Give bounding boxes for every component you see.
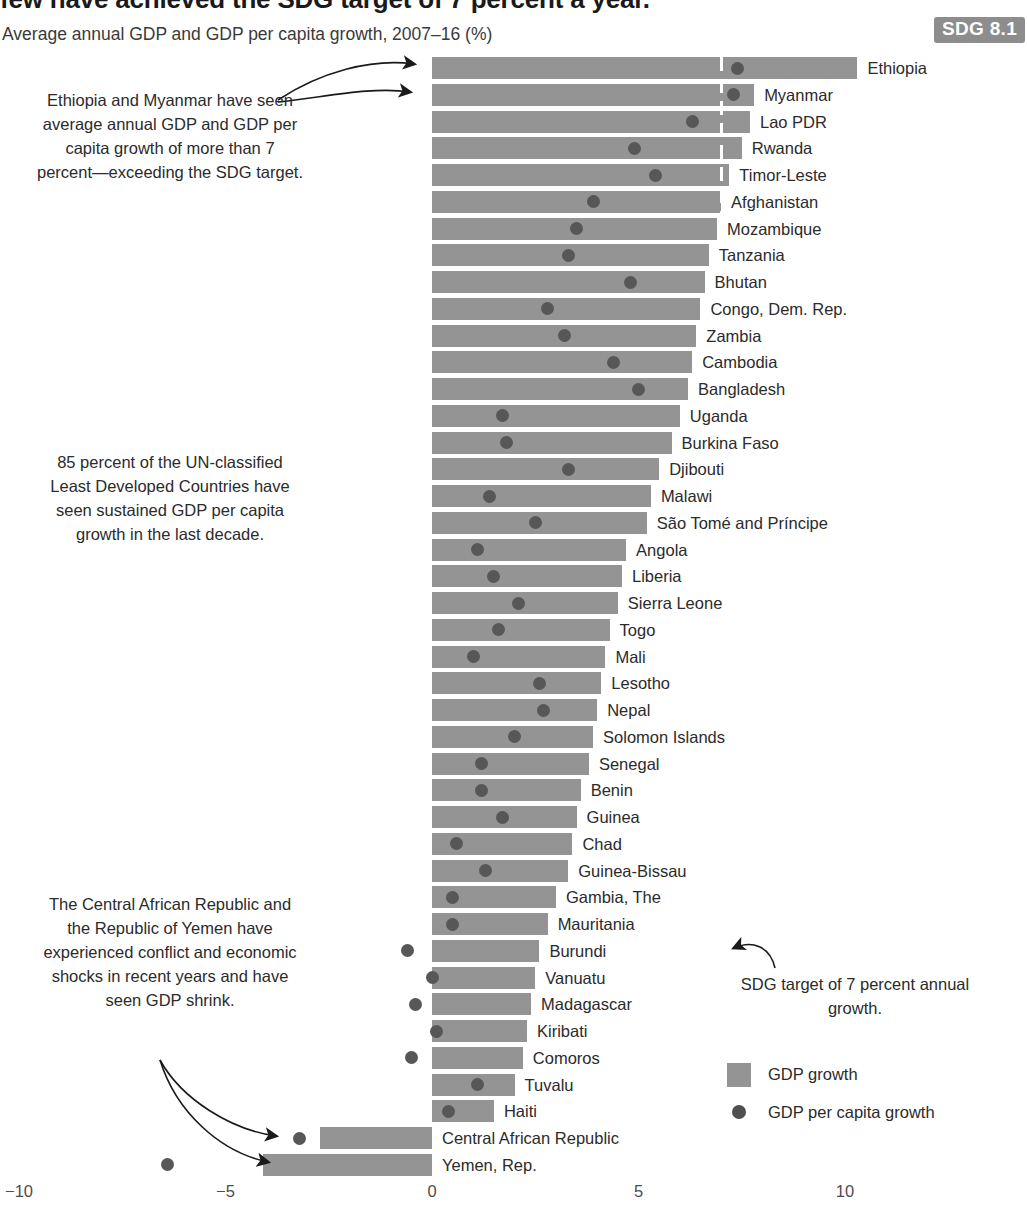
dot-gdp-per-capita-growth — [529, 516, 542, 529]
country-label: Lesotho — [611, 672, 670, 694]
country-label: São Tomé and Príncipe — [657, 512, 828, 534]
bar-gdp-growth — [432, 458, 659, 480]
dot-gdp-per-capita-growth — [475, 784, 488, 797]
x-axis-tick-label: 5 — [634, 1182, 643, 1201]
bar-gdp-growth — [432, 565, 622, 587]
dot-gdp-per-capita-growth — [562, 249, 575, 262]
dot-gdp-per-capita-growth — [496, 811, 509, 824]
bar-gdp-growth — [432, 191, 721, 213]
bar-gdp-growth — [263, 1154, 432, 1176]
sdg-target-reference-line-overlay — [720, 57, 723, 213]
country-label: Angola — [636, 539, 687, 561]
country-label: Kiribati — [537, 1020, 587, 1042]
dot-gdp-per-capita-growth — [607, 356, 620, 369]
bar-gdp-growth — [432, 164, 729, 186]
dot-gdp-per-capita-growth — [587, 195, 600, 208]
x-axis-tick-label: 0 — [427, 1182, 436, 1201]
dot-gdp-per-capita-growth — [537, 704, 550, 717]
dot-gdp-per-capita-growth — [624, 276, 637, 289]
dot-gdp-per-capita-growth — [632, 383, 645, 396]
bar-gdp-growth — [432, 646, 605, 668]
country-label: Madagascar — [541, 993, 632, 1015]
bar-gdp-growth — [432, 485, 651, 507]
legend-dot-gdp-per-capita-growth — [732, 1105, 746, 1119]
dot-gdp-per-capita-growth — [731, 62, 744, 75]
bar-gdp-growth — [432, 432, 672, 454]
country-label: Myanmar — [764, 84, 833, 106]
dot-gdp-per-capita-growth — [483, 490, 496, 503]
country-label: Sierra Leone — [628, 592, 722, 614]
country-label: Solomon Islands — [603, 726, 725, 748]
country-label: Bhutan — [715, 271, 767, 293]
bar-gdp-growth — [432, 1020, 527, 1042]
country-label: Benin — [591, 779, 633, 801]
dot-gdp-per-capita-growth — [293, 1132, 306, 1145]
dot-gdp-per-capita-growth — [492, 623, 505, 636]
dot-gdp-per-capita-growth — [475, 757, 488, 770]
annotation-ldc-share: 85 percent of the UN-classified Least De… — [36, 450, 304, 546]
dot-gdp-per-capita-growth — [533, 677, 546, 690]
country-label: Liberia — [632, 565, 682, 587]
country-label: Uganda — [690, 405, 748, 427]
bar-gdp-growth — [432, 940, 539, 962]
country-label: Zambia — [706, 325, 761, 347]
bar-gdp-growth — [432, 753, 589, 775]
annotation-sdg-target: SDG target of 7 percent annual growth. — [730, 972, 980, 1020]
country-label: Tanzania — [719, 244, 785, 266]
legend-swatch-gdp-growth — [727, 1063, 751, 1087]
country-label: Nepal — [607, 699, 650, 721]
dot-gdp-per-capita-growth — [442, 1105, 455, 1118]
bar-gdp-growth — [432, 271, 705, 293]
dot-gdp-per-capita-growth — [467, 650, 480, 663]
bar-gdp-growth — [432, 860, 568, 882]
bar-gdp-growth — [432, 111, 750, 133]
country-label: Mozambique — [727, 218, 821, 240]
bar-gdp-growth — [432, 84, 754, 106]
country-label: Ethiopia — [867, 57, 927, 79]
dot-gdp-per-capita-growth — [471, 543, 484, 556]
dot-gdp-per-capita-growth — [430, 1025, 443, 1038]
bar-gdp-growth — [432, 967, 535, 989]
country-label: Comoros — [533, 1047, 600, 1069]
country-label: Bangladesh — [698, 378, 785, 400]
bar-gdp-growth — [432, 351, 692, 373]
bar-gdp-growth — [432, 619, 610, 641]
country-label: Burkina Faso — [682, 432, 779, 454]
country-label: Vanuatu — [545, 967, 605, 989]
country-label: Gambia, The — [566, 886, 661, 908]
dot-gdp-per-capita-growth — [409, 998, 422, 1011]
dot-gdp-per-capita-growth — [426, 971, 439, 984]
bar-gdp-growth — [432, 378, 688, 400]
dot-gdp-per-capita-growth — [446, 918, 459, 931]
country-label: Central African Republic — [442, 1127, 619, 1149]
dot-gdp-per-capita-growth — [628, 142, 641, 155]
dot-gdp-per-capita-growth — [562, 463, 575, 476]
dot-gdp-per-capita-growth — [161, 1158, 174, 1171]
country-label: Congo, Dem. Rep. — [710, 298, 847, 320]
x-axis-tick-label: 10 — [836, 1182, 854, 1201]
dot-gdp-per-capita-growth — [446, 891, 459, 904]
dot-gdp-per-capita-growth — [405, 1051, 418, 1064]
bar-gdp-growth — [432, 405, 680, 427]
x-axis-tick-label: −5 — [216, 1182, 235, 1201]
dot-gdp-per-capita-growth — [471, 1078, 484, 1091]
bar-gdp-growth — [432, 57, 857, 79]
country-label: Timor-Leste — [739, 164, 826, 186]
annotation-ethiopia-myanmar: Ethiopia and Myanmar have seen average a… — [36, 88, 304, 184]
legend-label-gdp-per-capita-growth: GDP per capita growth — [768, 1103, 935, 1122]
bar-gdp-growth — [432, 137, 742, 159]
country-label: Togo — [620, 619, 656, 641]
bar-gdp-growth — [432, 1047, 523, 1069]
dot-gdp-per-capita-growth — [401, 944, 414, 957]
country-label: Cambodia — [702, 351, 777, 373]
dot-gdp-per-capita-growth — [512, 597, 525, 610]
country-label: Haiti — [504, 1100, 537, 1122]
country-label: Chad — [582, 833, 621, 855]
country-label: Lao PDR — [760, 111, 827, 133]
bar-gdp-growth — [432, 779, 581, 801]
dot-gdp-per-capita-growth — [500, 436, 513, 449]
country-label: Yemen, Rep. — [442, 1154, 537, 1176]
country-label: Tuvalu — [525, 1074, 574, 1096]
bar-gdp-growth — [432, 993, 531, 1015]
bar-gdp-growth — [432, 699, 597, 721]
